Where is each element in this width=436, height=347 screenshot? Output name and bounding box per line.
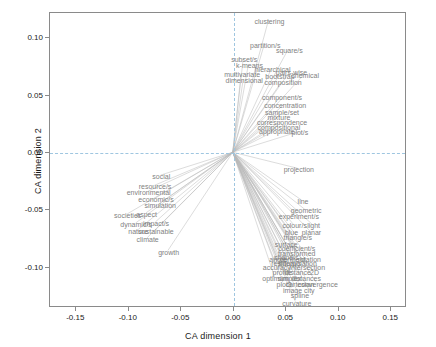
x-tick-mark (390, 307, 391, 311)
y-tick-mark (45, 37, 49, 38)
y-tick-label: 0.05 (10, 90, 43, 99)
x-tick-label: -0.10 (119, 313, 137, 322)
plot-inner: clusteringpartition/ssquare/ssubset/sk-m… (50, 13, 405, 306)
data-point-label: curvature (282, 300, 311, 307)
y-tick-label: -0.05 (10, 205, 43, 214)
data-point-label: spline (291, 292, 309, 299)
gridline-horizontal-zero (50, 153, 405, 154)
data-point-label: climate (137, 236, 159, 243)
y-tick-label: 0.10 (10, 33, 43, 42)
x-tick-label: 0.15 (382, 313, 398, 322)
data-point-label: appropriate (259, 128, 294, 135)
x-tick-label: 0.00 (225, 313, 241, 322)
y-tick-mark (45, 209, 49, 210)
data-point-label: dimensional (226, 76, 263, 83)
y-tick-mark (45, 267, 49, 268)
data-point-label: plot/s (292, 129, 309, 136)
y-tick-label: 0.00 (10, 148, 43, 157)
x-tick-mark (338, 307, 339, 311)
y-tick-mark (45, 152, 49, 153)
data-point-label: sustainable (138, 228, 173, 235)
data-point-label: impact/s (143, 220, 169, 227)
x-tick-mark (285, 307, 286, 311)
y-tick-label: -0.10 (10, 262, 43, 271)
x-tick-label: -0.05 (171, 313, 189, 322)
data-point-label: line (298, 198, 309, 205)
x-axis-title: CA dimension 1 (0, 331, 436, 341)
x-tick-mark (75, 307, 76, 311)
data-point-label: aspect (136, 210, 157, 217)
x-tick-mark (233, 307, 234, 311)
data-point-label: social (152, 172, 170, 179)
x-tick-label: 0.10 (330, 313, 346, 322)
data-point-label: clustering (254, 18, 284, 25)
plot-area: clusteringpartition/ssquare/ssubset/sk-m… (49, 12, 406, 307)
x-tick-mark (128, 307, 129, 311)
data-point-label: growth (158, 248, 179, 255)
data-point-label: square/s (276, 46, 303, 53)
x-tick-label: 0.05 (277, 313, 293, 322)
data-point-label: projection (284, 166, 314, 173)
x-tick-mark (180, 307, 181, 311)
data-point-label: experiment/s (279, 213, 319, 220)
data-point-label: composition (264, 78, 301, 85)
y-tick-mark (45, 95, 49, 96)
ray-lines (50, 13, 405, 306)
chart-root: CA dimension 2 CA dimension 1 clustering… (0, 0, 436, 347)
x-tick-label: -0.15 (66, 313, 84, 322)
data-point-label: component/s (262, 93, 302, 100)
data-point-label: simulation (144, 201, 176, 208)
